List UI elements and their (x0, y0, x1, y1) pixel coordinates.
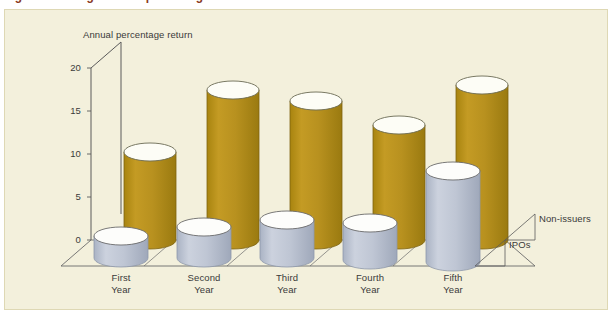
bar-ipos-second-year (177, 218, 231, 267)
x-label-first-year-line1: First (81, 272, 161, 284)
x-label-fifth-year-line2: Year (413, 284, 493, 296)
legend-label-ipos: IPOs (509, 239, 531, 250)
y-tick-20: 20 (53, 62, 81, 73)
y-tick-5: 5 (53, 191, 81, 202)
y-axis (87, 42, 121, 240)
chart-plot-area: Annual percentage return 20 15 10 5 0 Fi… (5, 10, 609, 311)
x-label-second-year-line2: Year (164, 284, 244, 296)
y-tick-15: 15 (53, 105, 81, 116)
y-tick-10: 10 (53, 148, 81, 159)
y-axis-title: Annual percentage return (83, 29, 193, 40)
figure-frame: Annual percentage return 20 15 10 5 0 Fi… (4, 9, 608, 310)
y-tick-0: 0 (53, 234, 81, 245)
figure-page: Figure 2 Average annual percentage retur… (0, 0, 612, 314)
x-label-second-year-line1: Second (164, 272, 244, 284)
bar-ipos-first-year (94, 227, 148, 267)
x-label-third-year-line1: Third (247, 272, 327, 284)
x-label-fourth-year-line1: Fourth (330, 272, 410, 284)
bar-ipos-fourth-year (343, 214, 397, 269)
legend-label-non-issuers: Non-issuers (539, 213, 591, 224)
figure-title-strip: Figure 2 Average annual percentage retur… (0, 0, 612, 9)
x-label-fourth-year-line2: Year (330, 284, 410, 296)
x-label-third-year-line2: Year (247, 284, 327, 296)
x-label-first-year-line2: Year (81, 284, 161, 296)
x-label-fifth-year-line1: Fifth (413, 272, 493, 284)
bar-ipos-third-year (260, 211, 314, 267)
figure-title: Figure 2 Average annual percentage retur… (4, 0, 401, 3)
chart-svg (5, 10, 609, 311)
bar-ipos-fifth-year (426, 162, 480, 271)
